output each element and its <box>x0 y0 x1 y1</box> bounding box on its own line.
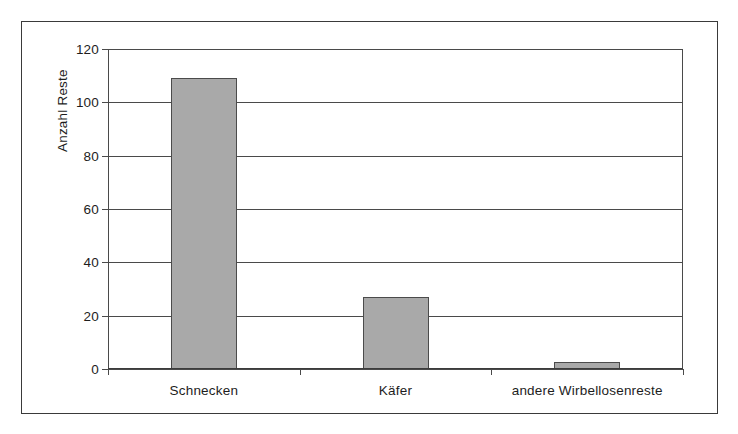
y-tick-mark <box>102 209 108 210</box>
x-axis-line <box>108 368 683 369</box>
x-tick-mark <box>108 369 109 375</box>
y-tick-label: 100 <box>76 95 99 110</box>
x-tick-mark <box>300 369 301 375</box>
x-tick-mark <box>491 369 492 375</box>
gridline <box>108 369 683 370</box>
plot-area: 020406080100120 SchneckenKäferandere Wir… <box>108 49 683 369</box>
gridline <box>108 49 683 50</box>
y-tick-mark <box>102 49 108 50</box>
y-tick-label: 40 <box>84 255 99 270</box>
y-tick-label: 0 <box>91 362 99 377</box>
x-tick-mark <box>683 369 684 375</box>
y-axis-title: Anzahl Reste <box>55 69 70 152</box>
x-tick-label: andere Wirbellosenreste <box>512 383 663 398</box>
y-tick-mark <box>102 262 108 263</box>
y-tick-label: 80 <box>84 148 99 163</box>
bar <box>171 78 237 369</box>
y-tick-label: 120 <box>76 42 99 57</box>
x-tick-label: Käfer <box>379 383 412 398</box>
y-tick-mark <box>102 156 108 157</box>
y-tick-label: 60 <box>84 202 99 217</box>
y-tick-mark <box>102 102 108 103</box>
chart-frame: Anzahl Reste 020406080100120 SchneckenKä… <box>21 21 718 414</box>
y-tick-label: 20 <box>84 308 99 323</box>
x-tick-label: Schnecken <box>170 383 239 398</box>
y-tick-mark <box>102 316 108 317</box>
bar <box>363 297 429 369</box>
